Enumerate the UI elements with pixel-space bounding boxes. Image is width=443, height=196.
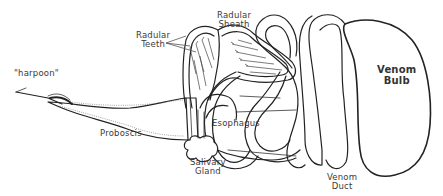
label-venom-duct: Venom Duct — [327, 173, 357, 191]
label-esophagus: Esophagus — [212, 119, 260, 128]
radular-sheath-shape — [208, 25, 295, 100]
venom-duct-shape — [205, 15, 348, 169]
label-radular-teeth: Radular Teeth — [136, 31, 170, 49]
label-venom-bulb: Venom Bulb — [377, 64, 416, 86]
label-radular-sheath: Radular Sheath — [217, 11, 251, 29]
venom-apparatus-diagram: "harpoon" Radular Teeth Radular Sheath V… — [0, 0, 443, 196]
label-harpoon: "harpoon" — [14, 69, 59, 78]
label-salivary-gland: Salivary Gland — [190, 158, 226, 176]
label-proboscis: Proboscis — [100, 129, 142, 138]
harpoon-shape — [16, 88, 72, 104]
radular-teeth-sac — [183, 26, 219, 108]
salivary-duct — [198, 110, 204, 138]
venom-bulb-shape — [344, 20, 431, 176]
